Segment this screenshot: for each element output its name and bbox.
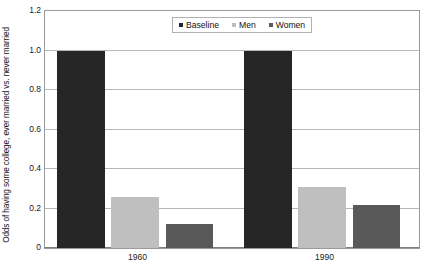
chart-legend: BaselineMenWomen xyxy=(172,17,312,33)
bar-chart: Odds of having some college, ever marrie… xyxy=(0,0,432,278)
bar xyxy=(111,197,159,248)
legend-label: Baseline xyxy=(186,20,219,30)
y-axis-tick-label: 0 xyxy=(14,242,41,252)
bar xyxy=(298,187,346,248)
y-axis-title: Odds of having some college, ever marrie… xyxy=(0,6,14,264)
legend-item: Women xyxy=(269,20,305,30)
bar xyxy=(57,51,105,249)
x-axis-tick-label: 1990 xyxy=(315,252,334,262)
plot-area xyxy=(44,10,420,249)
legend-swatch-icon xyxy=(232,23,236,27)
legend-label: Women xyxy=(276,20,305,30)
y-axis-tick-label: 1.0 xyxy=(14,45,41,55)
legend-label: Men xyxy=(239,20,256,30)
bars-layer xyxy=(45,11,419,248)
y-axis-tick-labels: 00.20.40.60.81.01.2 xyxy=(14,10,41,249)
y-axis-tick-label: 0.8 xyxy=(14,84,41,94)
legend-item: Baseline xyxy=(179,20,219,30)
x-axis-tick-label: 1960 xyxy=(128,252,147,262)
y-axis-tick-label: 1.2 xyxy=(14,5,41,15)
legend-item: Men xyxy=(232,20,256,30)
bar xyxy=(244,51,292,249)
y-axis-tick-label: 0.2 xyxy=(14,203,41,213)
legend-swatch-icon xyxy=(179,23,183,27)
y-axis-tick-label: 0.4 xyxy=(14,163,41,173)
legend-swatch-icon xyxy=(269,23,273,27)
x-axis-tick-labels: 19601990 xyxy=(44,252,420,266)
y-axis-tick-label: 0.6 xyxy=(14,124,41,134)
bar xyxy=(166,224,214,248)
bar xyxy=(353,205,401,248)
